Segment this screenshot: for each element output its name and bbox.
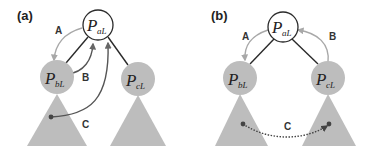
node-root-a-sub: aL xyxy=(97,26,107,36)
arrow-c-end-dot xyxy=(327,122,332,127)
arrow-c-label: C xyxy=(82,119,89,130)
left-subtree-triangle xyxy=(215,94,268,146)
tree-edge-root-right xyxy=(292,39,318,64)
node-left-a: P bL xyxy=(40,60,74,94)
node-right-b-sub: cL xyxy=(326,80,335,90)
node-root-a-label: P xyxy=(86,16,97,35)
node-right-b-label: P xyxy=(315,70,326,89)
node-root-a: P aL xyxy=(83,10,113,40)
node-root-b: P aL xyxy=(268,12,298,42)
right-subtree-triangle xyxy=(110,95,166,146)
left-subtree-triangle xyxy=(27,94,87,146)
panel-a: (a) A B C P aL P bL P cL xyxy=(17,8,166,146)
node-left-b-label: P xyxy=(227,70,238,89)
node-right-a-label: P xyxy=(125,71,136,90)
arrow-b-label: B xyxy=(329,31,336,42)
node-right-a: P cL xyxy=(121,62,155,96)
tree-edge-root-left xyxy=(66,37,88,63)
arrow-a-label: A xyxy=(242,31,249,42)
arrow-c-start-dot xyxy=(241,122,246,127)
node-right-a-sub: cL xyxy=(136,81,145,91)
tree-edge-root-left xyxy=(250,39,274,64)
panel-b-label: (b) xyxy=(211,8,228,23)
arrow-c-start-dot xyxy=(49,115,54,120)
node-left-b: P bL xyxy=(223,61,257,95)
arrow-a-label: A xyxy=(55,25,62,36)
panel-a-label: (a) xyxy=(17,8,33,23)
node-left-a-sub: bL xyxy=(55,79,65,89)
arrow-b xyxy=(298,30,328,62)
tree-edge-root-right xyxy=(108,37,128,65)
arrow-c-label: C xyxy=(284,121,291,132)
right-subtree-triangle xyxy=(302,94,356,146)
tree-diagram: (a) A B C P aL P bL P cL xyxy=(0,0,375,156)
node-root-b-sub: aL xyxy=(282,28,292,38)
node-right-b: P cL xyxy=(311,61,345,95)
node-left-a-label: P xyxy=(44,69,55,88)
node-left-b-sub: bL xyxy=(238,80,248,90)
panel-b: (b) A B C P aL P bL P cL xyxy=(211,8,356,146)
arrow-b-label: B xyxy=(82,72,89,83)
node-root-b-label: P xyxy=(271,18,282,37)
